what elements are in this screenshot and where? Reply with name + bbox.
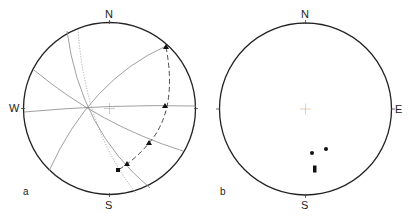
square-marker [116,168,120,172]
south-label-b: S [301,200,308,211]
stereonet-b [216,20,395,198]
great-circle-ew [24,106,196,112]
stereonet-figure [0,0,409,219]
north-label-b: N [301,9,309,20]
great-circle-dotted [78,29,136,193]
dashed-arc [118,47,170,170]
stereonet-a [21,20,198,197]
east-label-b: E [395,104,402,115]
west-label-a: W [9,103,19,114]
pole-point [313,166,317,170]
panel-label-b: b [220,187,226,197]
great-circle-nw-se [34,70,183,151]
south-label-a: S [105,200,112,211]
great-circle-n-s [67,31,150,188]
pole-point [313,169,317,173]
pole-point [324,147,328,151]
north-label-a: N [105,9,113,20]
pole-point [310,151,314,155]
center-cross-icon [300,104,311,115]
center-cross-icon [104,103,115,114]
panel-label-a: a [23,187,29,197]
